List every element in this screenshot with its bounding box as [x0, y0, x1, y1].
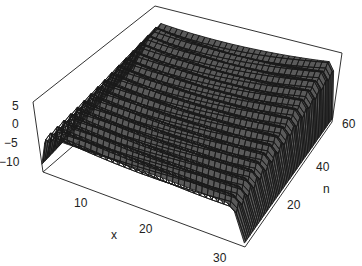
x-axis: 10 20 30 x: [74, 196, 227, 265]
n-axis-title: n: [323, 182, 330, 196]
x-tick-label: 30: [213, 251, 227, 265]
x-tick-label: 10: [74, 196, 88, 210]
z-tick-label: −10: [0, 155, 20, 169]
n-tick-label: 60: [342, 117, 356, 131]
z-tick-label: −5: [4, 136, 18, 150]
z-axis: 5 0 −5 −10: [0, 99, 20, 169]
n-tick-label: 40: [316, 160, 330, 174]
n-tick-label: 20: [287, 198, 301, 212]
surface-plot: 5 0 −5 −10 10 20 30 x 20 40 60 n: [0, 0, 362, 266]
x-tick-label: 20: [139, 222, 153, 236]
x-axis-title: x: [111, 228, 117, 242]
z-tick-label: 5: [12, 99, 19, 113]
z-tick-label: 0: [12, 117, 19, 131]
